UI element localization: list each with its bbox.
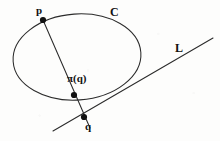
label-p: p (36, 5, 42, 16)
line-l (53, 38, 213, 131)
label-q: q (85, 121, 91, 132)
geometry-figure: p C L π(q) q (0, 0, 220, 141)
label-curve-c: C (110, 6, 119, 18)
point-pi-of-q-dot (71, 92, 77, 98)
label-pi-of-q: π(q) (67, 73, 86, 84)
figure-canvas (0, 0, 220, 141)
label-line-l: L (175, 42, 183, 54)
point-p-dot (40, 17, 46, 23)
